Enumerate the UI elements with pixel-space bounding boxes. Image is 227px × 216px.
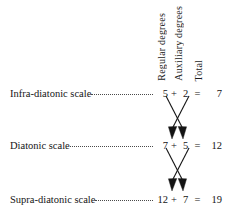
column-header-auxiliary-degrees: Auxiliary degrees <box>174 6 184 81</box>
row-label-infra-diatonic: Infra-diatonic scale <box>10 88 91 99</box>
scale-degrees-figure: Regular degrees Auxiliary degrees Total … <box>0 0 227 216</box>
crossed-arrows-icon <box>155 147 201 195</box>
value-total: 19 <box>204 194 222 205</box>
crossed-arrows-icon <box>155 95 201 143</box>
value-total: 7 <box>204 88 222 99</box>
row-values-supra-diatonic: 12 + 7 = 19 <box>153 194 222 205</box>
row-label-diatonic: Diatonic scale <box>10 140 70 151</box>
value-total: 12 <box>204 140 222 151</box>
value-auxiliary-degrees: 7 <box>180 194 191 205</box>
value-regular-degrees: 12 <box>153 194 168 205</box>
equals-operator: = <box>191 194 204 205</box>
plus-operator: + <box>168 194 180 205</box>
dot-leader <box>95 191 153 203</box>
dot-leader <box>70 137 153 149</box>
column-header-total: Total <box>194 60 204 81</box>
dot-leader <box>91 85 153 97</box>
row-label-supra-diatonic: Supra-diatonic scale <box>10 194 95 205</box>
column-header-regular-degrees: Regular degrees <box>157 13 167 81</box>
table-row-supra-diatonic: Supra-diatonic scale 12 + 7 = 19 <box>10 191 222 204</box>
